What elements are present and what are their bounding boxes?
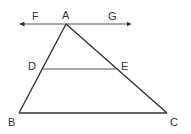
label-g: G [108, 10, 117, 22]
label-b: B [8, 116, 15, 128]
label-e: E [121, 60, 128, 72]
geometry-diagram: F A G D E B C [0, 0, 191, 134]
label-a: A [62, 9, 70, 21]
label-d: D [28, 60, 36, 72]
label-f: F [32, 10, 39, 22]
label-c: C [170, 116, 178, 128]
